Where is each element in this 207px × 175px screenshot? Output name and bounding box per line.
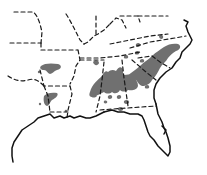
southeast-us-map <box>0 0 207 175</box>
shaded-region-south-3 <box>124 100 129 104</box>
shaded-speck <box>39 103 41 105</box>
shaded-region-south-5 <box>104 101 108 104</box>
